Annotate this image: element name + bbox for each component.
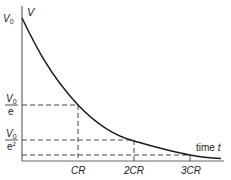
svg-text:V0: V0	[6, 128, 17, 140]
tick-label-cr: CR	[71, 165, 85, 176]
tick-label-2cr: 2CR	[123, 165, 144, 176]
tick-label-3cr: 3CR	[181, 165, 201, 176]
label-v0-over-e2: V0 e2	[5, 128, 18, 152]
guide-lines	[22, 105, 190, 161]
label-v0-over-e: V0 e	[5, 93, 18, 117]
label-v0: V0	[3, 13, 14, 25]
x-axis-label: time t	[196, 142, 222, 153]
svg-text:e: e	[8, 106, 14, 117]
svg-text:e2: e2	[7, 141, 17, 152]
discharge-curve-diagram: V V0 V0 e V0 e2 CR 2CR 3CR time t	[0, 0, 231, 180]
svg-text:V0: V0	[6, 93, 17, 105]
decay-curve	[22, 18, 221, 159]
y-axis-label: V	[27, 6, 36, 18]
